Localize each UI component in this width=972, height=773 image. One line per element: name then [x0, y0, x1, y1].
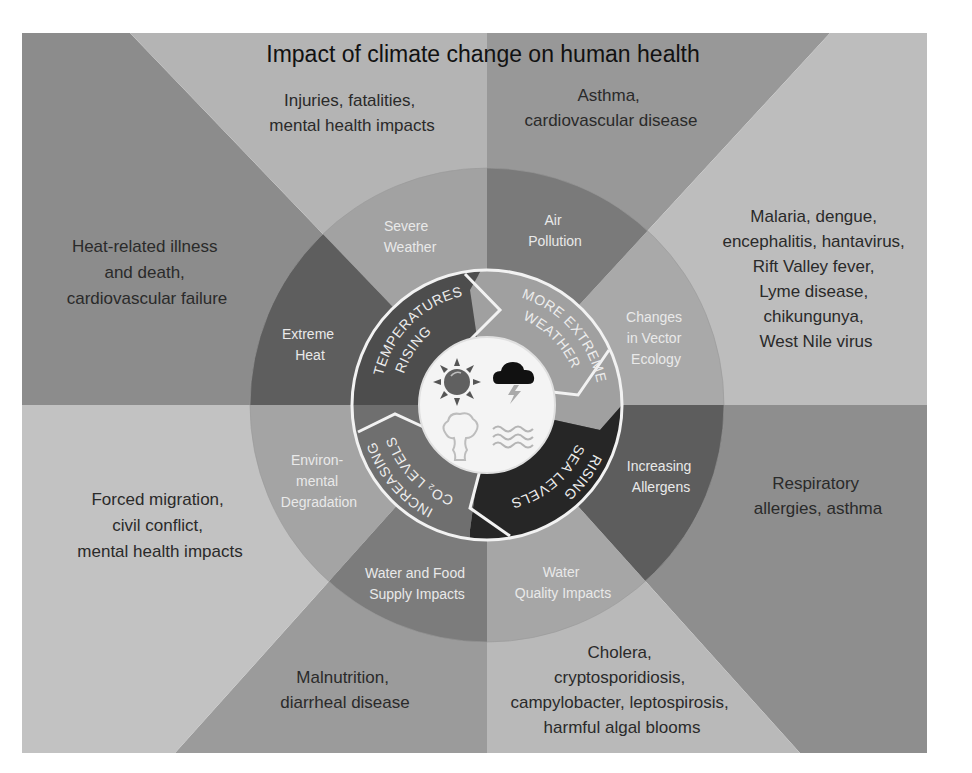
page-title: Impact of climate change on human health: [266, 41, 699, 67]
ring-label-vector-ecology: Changes in Vector Ecology: [626, 309, 686, 367]
center-disc: [419, 337, 555, 473]
climate-health-diagram: RISING TEMPERATURES MORE EXTREME WEATHER…: [0, 0, 972, 773]
sun-icon: [433, 358, 481, 406]
